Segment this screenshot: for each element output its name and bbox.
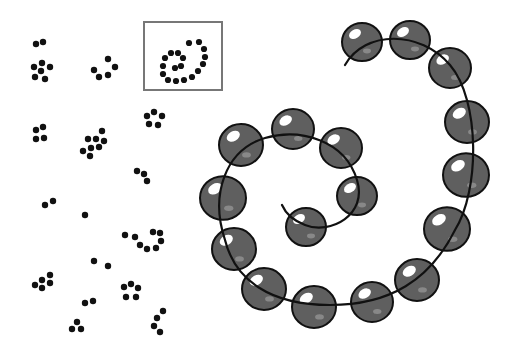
dot (173, 78, 179, 84)
bead-reflection (358, 203, 366, 208)
dot-cluster-pentagon-five (144, 109, 165, 128)
dot (151, 323, 157, 329)
dot (101, 138, 107, 144)
dot (159, 113, 165, 119)
dot (123, 294, 129, 300)
bead-reflection (467, 183, 476, 189)
bead-reflection (315, 314, 324, 319)
bead (272, 109, 314, 149)
dot (88, 145, 94, 151)
dot-cluster-pair-bottom (82, 298, 96, 306)
dot (150, 229, 156, 235)
bead (443, 153, 489, 197)
dot (201, 46, 207, 52)
dot (189, 74, 195, 80)
dot-cluster-blob-eight (80, 128, 107, 159)
bead-sphere (292, 286, 336, 328)
dot (144, 113, 150, 119)
dot (155, 122, 161, 128)
bead-sphere (429, 48, 471, 88)
bead-reflection (242, 152, 251, 157)
dot (50, 198, 56, 204)
dot (40, 124, 46, 130)
bead (320, 128, 362, 168)
dot (90, 298, 96, 304)
dot-cluster-cross-five (31, 60, 53, 82)
dot-cluster-square-four (33, 124, 47, 142)
dot (80, 148, 86, 154)
dot (42, 76, 48, 82)
bead-reflection (224, 206, 233, 212)
dot (195, 68, 201, 74)
dot (121, 284, 127, 290)
dot (47, 64, 53, 70)
dot (78, 326, 84, 332)
spiral-bead-illustration (0, 0, 518, 352)
dot (93, 136, 99, 142)
bead-reflection (363, 49, 371, 54)
dot (38, 68, 44, 74)
dot (160, 308, 166, 314)
bead (445, 101, 489, 143)
dot-cluster-pair-top-left (33, 39, 46, 47)
bead-sphere (443, 153, 489, 197)
inset-spiral-box (144, 22, 222, 90)
dot (85, 136, 91, 142)
bead-reflection (411, 47, 419, 52)
bead-sphere (242, 268, 286, 310)
dot (33, 41, 39, 47)
dot (82, 212, 88, 218)
dot (144, 246, 150, 252)
dot (96, 144, 102, 150)
bead (242, 268, 286, 310)
dot (105, 72, 111, 78)
bead-reflection (265, 296, 274, 301)
dot (33, 127, 39, 133)
dot (181, 77, 187, 83)
dot (132, 234, 138, 240)
dot (32, 74, 38, 80)
dot (175, 50, 181, 56)
bead-reflection (418, 287, 427, 292)
dot (157, 329, 163, 335)
dot-cluster-pair-lower (91, 258, 111, 269)
dot (33, 136, 39, 142)
dot-cluster-arc-five (91, 56, 118, 80)
dot-cluster-cluster-five-low (32, 272, 53, 291)
dot-cluster-chain-three (134, 168, 150, 184)
dot (128, 281, 134, 287)
bead-reflection (373, 309, 381, 314)
dot (160, 63, 166, 69)
dot-cluster-pair-mid-left (42, 198, 56, 208)
dot (158, 238, 164, 244)
bead-sphere (445, 101, 489, 143)
dot (151, 109, 157, 115)
dot (133, 294, 139, 300)
dot (196, 39, 202, 45)
dot (153, 245, 159, 251)
dot (91, 67, 97, 73)
dot (180, 55, 186, 61)
dot (40, 39, 46, 45)
dot (47, 272, 53, 278)
dot (162, 55, 168, 61)
dot (105, 56, 111, 62)
dot (47, 280, 53, 286)
bead (219, 124, 263, 166)
dot (41, 135, 47, 141)
dot-cluster-pentagon-low (121, 281, 141, 300)
dot (74, 319, 80, 325)
dot (39, 277, 45, 283)
dot (160, 71, 166, 77)
dot (42, 202, 48, 208)
dot-cluster-single-mid (82, 212, 88, 218)
dot (99, 128, 105, 134)
dot-cluster-chain-four (151, 308, 166, 335)
dot (172, 65, 178, 71)
dot (134, 168, 140, 174)
dot (39, 60, 45, 66)
dot (157, 230, 163, 236)
dot-cluster-hook-seven (122, 229, 164, 252)
dot (146, 121, 152, 127)
dot (186, 40, 192, 46)
